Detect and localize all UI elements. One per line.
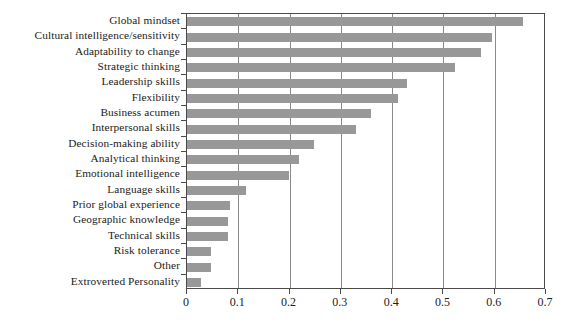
bar bbox=[187, 125, 356, 134]
x-tick-mark bbox=[391, 289, 392, 294]
row-tick bbox=[181, 228, 186, 229]
x-tick-label: 0.7 bbox=[525, 295, 565, 309]
plot-area bbox=[186, 13, 545, 289]
row-tick bbox=[181, 105, 186, 106]
category-label: Adaptability to change bbox=[0, 46, 180, 57]
x-tick-mark bbox=[442, 289, 443, 294]
category-label: Global mindset bbox=[0, 15, 180, 26]
category-label: Interpersonal skills bbox=[0, 122, 180, 133]
x-tick-mark bbox=[494, 289, 495, 294]
category-label: Emotional intelligence bbox=[0, 168, 180, 179]
row-tick bbox=[181, 13, 186, 14]
x-tick-label: 0.5 bbox=[422, 295, 462, 309]
row-tick bbox=[181, 274, 186, 275]
category-label: Technical skills bbox=[0, 230, 180, 241]
category-label: Business acumen bbox=[0, 107, 180, 118]
category-label: Decision-making ability bbox=[0, 138, 180, 149]
bar bbox=[187, 171, 289, 180]
x-tick-label: 0.6 bbox=[474, 295, 514, 309]
bar bbox=[187, 79, 407, 88]
row-tick bbox=[181, 120, 186, 121]
row-tick bbox=[181, 243, 186, 244]
category-label: Geographic knowledge bbox=[0, 214, 180, 225]
row-tick bbox=[181, 182, 186, 183]
row-tick bbox=[181, 90, 186, 91]
category-label: Flexibility bbox=[0, 92, 180, 103]
category-label: Cultural intelligence/sensitivity bbox=[0, 30, 180, 41]
category-label: Language skills bbox=[0, 184, 180, 195]
bar bbox=[187, 109, 371, 118]
x-tick-label: 0 bbox=[166, 295, 206, 309]
row-tick bbox=[181, 258, 186, 259]
row-tick bbox=[181, 74, 186, 75]
x-tick-mark bbox=[237, 289, 238, 294]
bar bbox=[187, 263, 211, 272]
category-label: Prior global experience bbox=[0, 199, 180, 210]
bar bbox=[187, 17, 523, 26]
x-tick-mark bbox=[186, 289, 187, 294]
row-tick bbox=[181, 212, 186, 213]
row-tick bbox=[181, 28, 186, 29]
x-tick-label: 0.2 bbox=[269, 295, 309, 309]
bar bbox=[187, 63, 455, 72]
bar bbox=[187, 94, 398, 103]
bar bbox=[187, 155, 299, 164]
x-tick-label: 0.1 bbox=[217, 295, 257, 309]
bar bbox=[187, 232, 228, 241]
bar bbox=[187, 201, 230, 210]
category-label-column: Global mindsetCultural intelligence/sens… bbox=[0, 13, 180, 289]
bar bbox=[187, 217, 228, 226]
category-label: Risk tolerance bbox=[0, 245, 180, 256]
row-tick bbox=[181, 197, 186, 198]
x-tick-label: 0.4 bbox=[371, 295, 411, 309]
category-label: Other bbox=[0, 260, 180, 271]
horizontal-bar-chart: Global mindsetCultural intelligence/sens… bbox=[0, 0, 567, 323]
category-label: Analytical thinking bbox=[0, 153, 180, 164]
row-tick bbox=[181, 166, 186, 167]
bar bbox=[187, 140, 314, 149]
bar bbox=[187, 33, 492, 42]
bar bbox=[187, 247, 211, 256]
bar bbox=[187, 48, 481, 57]
row-tick bbox=[181, 44, 186, 45]
x-tick-mark bbox=[289, 289, 290, 294]
gridline bbox=[495, 14, 496, 288]
category-label: Extroverted Personality bbox=[0, 276, 180, 287]
bar bbox=[187, 278, 201, 287]
row-tick bbox=[181, 59, 186, 60]
row-tick bbox=[181, 136, 186, 137]
category-label: Leadership skills bbox=[0, 76, 180, 87]
x-tick-mark bbox=[340, 289, 341, 294]
row-tick bbox=[181, 151, 186, 152]
bar bbox=[187, 186, 246, 195]
category-label: Strategic thinking bbox=[0, 61, 180, 72]
x-tick-label: 0.3 bbox=[320, 295, 360, 309]
x-tick-mark bbox=[545, 289, 546, 294]
